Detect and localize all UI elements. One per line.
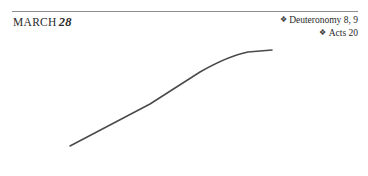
curved-line-path [70,50,272,146]
line-illustration [0,0,368,176]
devotional-page: MARCH28 ❖Deuteronomy 8, 9 ❖Acts 20 [0,0,368,176]
